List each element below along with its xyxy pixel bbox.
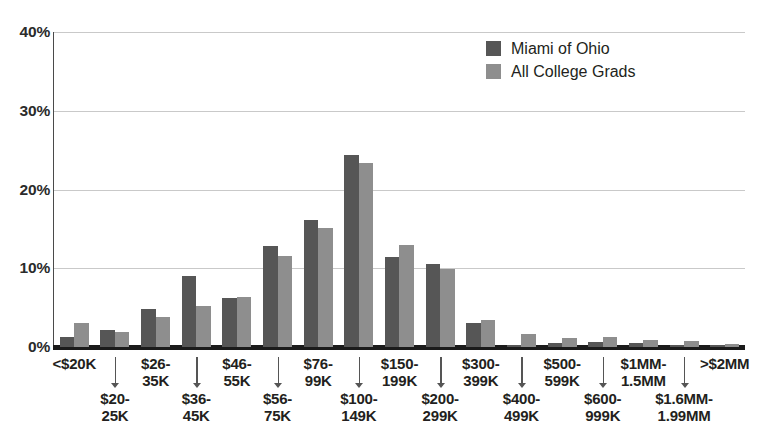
- x-axis-label: $150-199K: [355, 355, 445, 389]
- legend-item-miami-of-ohio: Miami of Ohio: [486, 37, 706, 60]
- x-axis-label-line2: 149K: [314, 407, 404, 424]
- x-axis-label: $56-75K: [233, 390, 323, 424]
- y-axis-tick-labels: 0%10%20%30%40%: [0, 0, 50, 360]
- x-axis-label: $100-149K: [314, 390, 404, 424]
- bar-group: [257, 32, 298, 347]
- bar: [196, 306, 211, 347]
- bar-group: [217, 32, 258, 347]
- x-axis-label-line1: $56-: [233, 390, 323, 407]
- bar-group: [704, 32, 745, 347]
- x-axis-label-line1: <$20K: [29, 355, 119, 372]
- x-axis-label-line2: 35K: [111, 372, 201, 389]
- x-axis-label-line1: $1.6MM-: [639, 390, 729, 407]
- bar: [548, 343, 563, 347]
- x-axis-label-line2: 75K: [233, 407, 323, 424]
- bar: [562, 338, 577, 347]
- bar-group: [176, 32, 217, 347]
- x-axis-label-line1: $300-: [436, 355, 526, 372]
- bar: [643, 340, 658, 347]
- x-axis-label: $500-599K: [517, 355, 607, 389]
- x-axis-label-line1: $20-: [70, 390, 160, 407]
- bar: [100, 330, 115, 347]
- bar: [440, 269, 455, 347]
- x-axis-label-line1: $36-: [151, 390, 241, 407]
- x-axis-label: $1MM-1.5MM: [598, 355, 688, 389]
- x-axis-label-line2: 1.99MM: [639, 407, 729, 424]
- legend-label-miami-of-ohio: Miami of Ohio: [511, 40, 610, 58]
- x-axis-label-line2: 199K: [355, 372, 445, 389]
- x-axis-label: $200-299K: [395, 390, 485, 424]
- x-axis-label: $400-499K: [476, 390, 566, 424]
- bar-group: [339, 32, 380, 347]
- bar: [466, 323, 481, 347]
- bar: [60, 337, 75, 347]
- x-axis-label-line2: 999K: [558, 407, 648, 424]
- x-axis-label-line1: $200-: [395, 390, 485, 407]
- bar: [725, 344, 740, 347]
- bar: [521, 334, 536, 347]
- x-axis-label-line1: $100-: [314, 390, 404, 407]
- x-axis-category-labels: <$20K$20-25K$26-35K$36-45K$46-55K$56-75K…: [54, 350, 754, 439]
- bar-group: [298, 32, 339, 347]
- x-axis-label: $1.6MM-1.99MM: [639, 390, 729, 424]
- bar: [182, 276, 197, 347]
- x-axis-label: $46-55K: [192, 355, 282, 389]
- x-axis-label-line1: $46-: [192, 355, 282, 372]
- bar: [263, 246, 278, 347]
- x-axis-label: $36-45K: [151, 390, 241, 424]
- x-axis-label-line1: $26-: [111, 355, 201, 372]
- bar: [588, 342, 603, 348]
- bar: [399, 245, 414, 347]
- chart-legend: Miami of Ohio All College Grads: [486, 37, 706, 83]
- x-axis-label-line2: 45K: [151, 407, 241, 424]
- x-axis-label-line1: $400-: [476, 390, 566, 407]
- x-axis-label: $76-99K: [273, 355, 363, 389]
- bar: [74, 323, 89, 347]
- legend-label-all-college-grads: All College Grads: [511, 63, 636, 81]
- bar: [507, 345, 522, 347]
- x-axis-label-line2: 599K: [517, 372, 607, 389]
- x-axis-label-line2: 99K: [273, 372, 363, 389]
- x-axis-label: $600-999K: [558, 390, 648, 424]
- bar: [481, 320, 496, 347]
- bar: [603, 337, 618, 347]
- bar: [385, 257, 400, 347]
- x-axis-label-line1: $600-: [558, 390, 648, 407]
- y-tick-label-30pct: 30%: [4, 102, 50, 120]
- bar: [278, 256, 293, 347]
- bar: [684, 341, 699, 347]
- bar: [426, 264, 441, 347]
- x-axis-label-line2: 299K: [395, 407, 485, 424]
- bar: [344, 155, 359, 347]
- x-axis-label-line1: >$2MM: [680, 355, 770, 372]
- bar-group: [420, 32, 461, 347]
- legend-swatch-light: [486, 64, 501, 79]
- bar: [710, 345, 725, 347]
- bar: [156, 317, 171, 347]
- x-axis-label: $26-35K: [111, 355, 201, 389]
- x-axis-label: $300-399K: [436, 355, 526, 389]
- y-tick-label-20pct: 20%: [4, 181, 50, 199]
- y-tick-label-10pct: 10%: [4, 259, 50, 277]
- x-axis-label-line1: $76-: [273, 355, 363, 372]
- bar: [318, 228, 333, 347]
- x-axis-label: $20-25K: [70, 390, 160, 424]
- bar: [237, 297, 252, 347]
- bar-group: [379, 32, 420, 347]
- x-axis-label-line2: 499K: [476, 407, 566, 424]
- x-axis-label: <$20K: [29, 355, 119, 372]
- x-axis-label-line1: $500-: [517, 355, 607, 372]
- x-axis-label-line1: $150-: [355, 355, 445, 372]
- bar: [222, 298, 237, 347]
- bar: [359, 163, 374, 347]
- bar-group: [95, 32, 136, 347]
- legend-swatch-dark: [486, 41, 501, 56]
- bar: [670, 345, 685, 347]
- x-axis-label: >$2MM: [680, 355, 770, 372]
- y-tick-label-40pct: 40%: [4, 23, 50, 41]
- bar: [629, 343, 644, 347]
- legend-item-all-college-grads: All College Grads: [486, 60, 706, 83]
- bar-group: [135, 32, 176, 347]
- x-axis-label-line2: 1.5MM: [598, 372, 688, 389]
- y-tick-label-0pct: 0%: [4, 338, 50, 356]
